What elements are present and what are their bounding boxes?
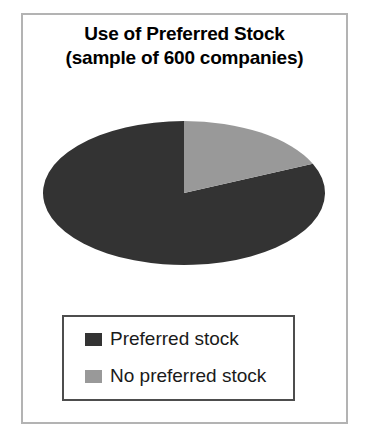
chart-title-line-2: (sample of 600 companies) [24,46,345,70]
legend-swatch-no-preferred-stock [85,370,102,383]
legend-item-preferred-stock[interactable]: Preferred stock [85,326,239,352]
legend-swatch-preferred-stock [85,333,102,346]
legend-label-preferred-stock: Preferred stock [110,328,239,350]
pie-slice-group [43,121,325,265]
chart-legend: Preferred stock No preferred stock [62,315,295,401]
legend-label-no-preferred-stock: No preferred stock [110,365,266,387]
pie-plot-area [24,100,345,300]
legend-item-no-preferred-stock[interactable]: No preferred stock [85,363,266,389]
chart-title: Use of Preferred Stock (sample of 600 co… [24,22,345,70]
pie-chart [24,100,345,300]
chart-figure: Use of Preferred Stock (sample of 600 co… [0,0,369,447]
chart-title-line-1: Use of Preferred Stock [24,22,345,46]
